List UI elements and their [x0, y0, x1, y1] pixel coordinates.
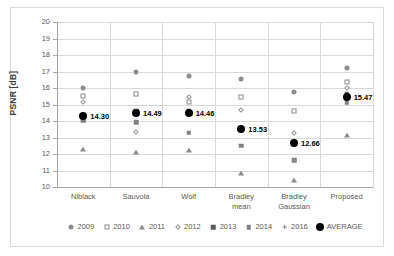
- scatter-plot: PSNR [dB] 2019181716151413121110 Niblack…: [0, 0, 394, 256]
- y-tick-label: 19: [28, 35, 50, 43]
- legend-item-2009[interactable]: 2009: [68, 223, 95, 231]
- y-tick-label: 12: [28, 150, 50, 158]
- x-category-label-line1: Proposed: [320, 192, 373, 202]
- data-point-2014: [186, 130, 191, 135]
- x-category-label: Bradleymean: [215, 192, 268, 211]
- data-point-2011: [291, 178, 297, 183]
- average-value-label: 14.30: [90, 112, 109, 121]
- x-category-label: Sauvola: [110, 192, 163, 202]
- data-point-2009: [134, 69, 139, 74]
- legend-item-2011[interactable]: 2011: [139, 223, 165, 231]
- data-point-2010: [292, 109, 297, 114]
- data-point-2010: [134, 92, 139, 97]
- y-tick-label: 11: [28, 167, 50, 175]
- x-category-label-line1: Bradley: [268, 192, 321, 202]
- legend-label: 2010: [113, 223, 130, 231]
- legend-item-2012[interactable]: 2012: [174, 223, 201, 231]
- legend-label: AVERAGE: [327, 223, 363, 231]
- data-point-2012: [344, 85, 350, 91]
- x-category-label-line1: Sauvola: [110, 192, 163, 202]
- legend-label: 2013: [220, 223, 237, 231]
- y-tick-label: 16: [28, 84, 50, 92]
- category-separator: [215, 22, 216, 188]
- legend-label: 2012: [184, 223, 201, 231]
- legend-label: 2011: [149, 223, 165, 231]
- data-point-2010: [239, 94, 244, 99]
- chart-legend: 2009201020112012201320142016AVERAGE: [57, 219, 373, 235]
- average-value-label: 12.66: [301, 139, 320, 148]
- x-category-label-line1: Niblack: [57, 192, 110, 202]
- data-point-2011: [133, 149, 139, 154]
- y-tick-label: 17: [28, 68, 50, 76]
- data-point-average: [237, 125, 245, 133]
- data-point-average: [79, 112, 87, 120]
- data-point-2011: [344, 132, 350, 137]
- legend-item-2013[interactable]: 2013: [210, 223, 237, 231]
- data-point-average: [132, 109, 140, 117]
- data-point-2014: [134, 120, 139, 125]
- data-point-2012: [291, 130, 297, 136]
- data-point-2011: [80, 147, 86, 152]
- category-separator: [110, 22, 111, 188]
- data-point-average: [185, 109, 193, 117]
- legend-marker-2014-icon: [245, 224, 252, 231]
- x-category-label-line2: Gaussian: [268, 202, 321, 212]
- data-point-2014: [239, 144, 244, 149]
- y-tick-label: 14: [28, 117, 50, 125]
- average-value-label: 14.46: [196, 109, 215, 118]
- plot-top-border: [57, 22, 374, 23]
- legend-label: 2009: [78, 223, 95, 231]
- data-point-2010: [81, 93, 86, 98]
- plot-right-border: [373, 22, 374, 188]
- data-point-2011: [238, 170, 244, 175]
- x-category-label: Niblack: [57, 192, 110, 202]
- y-tick-label: 20: [28, 18, 50, 26]
- legend-marker-2013-icon: [210, 224, 217, 231]
- y-tick-label: 13: [28, 134, 50, 142]
- y-tick-label: 15: [28, 101, 50, 109]
- category-separator: [268, 22, 269, 188]
- y-axis-line: [57, 22, 58, 188]
- x-category-label-line1: Bradley: [215, 192, 268, 202]
- data-point-2010: [344, 79, 349, 84]
- data-point-2014: [344, 100, 349, 105]
- legend-marker-average-icon: [317, 224, 324, 231]
- average-value-label: 15.47: [354, 92, 373, 101]
- data-point-2009: [186, 74, 191, 79]
- legend-marker-2010-icon: [103, 224, 110, 231]
- y-axis-label: PSNR [dB]: [8, 63, 18, 123]
- data-point-2009: [81, 85, 86, 90]
- legend-label: 2014: [255, 223, 272, 231]
- data-point-2010: [186, 100, 191, 105]
- category-separator: [162, 22, 163, 188]
- x-category-label: BradleyGaussian: [268, 192, 321, 211]
- category-separator: [320, 22, 321, 188]
- x-category-label-line2: mean: [215, 202, 268, 212]
- legend-marker-2011-icon: [139, 224, 146, 231]
- data-point-2009: [239, 77, 244, 82]
- data-point-2011: [186, 148, 192, 153]
- y-tick-label: 10: [28, 183, 50, 191]
- legend-item-2016[interactable]: 2016: [281, 223, 308, 231]
- legend-marker-2016-icon: [281, 224, 288, 231]
- average-value-label: 13.53: [248, 124, 267, 133]
- legend-item-2010[interactable]: 2010: [103, 223, 130, 231]
- data-point-average: [343, 93, 351, 101]
- data-point-average: [290, 139, 298, 147]
- legend-item-average[interactable]: AVERAGE: [317, 223, 363, 231]
- x-axis-line: [57, 187, 373, 188]
- y-tick-label: 18: [28, 51, 50, 59]
- legend-marker-2012-icon: [174, 224, 181, 231]
- data-point-2009: [292, 89, 297, 94]
- data-point-2012: [133, 129, 139, 135]
- legend-label: 2016: [291, 223, 308, 231]
- x-category-label: Wolf: [162, 192, 215, 202]
- legend-marker-2009-icon: [68, 224, 75, 231]
- data-point-2012: [238, 107, 244, 113]
- x-category-label-line1: Wolf: [162, 192, 215, 202]
- x-category-label: Proposed: [320, 192, 373, 202]
- average-value-label: 14.49: [143, 108, 162, 117]
- data-point-2009: [344, 66, 349, 71]
- legend-item-2014[interactable]: 2014: [245, 223, 272, 231]
